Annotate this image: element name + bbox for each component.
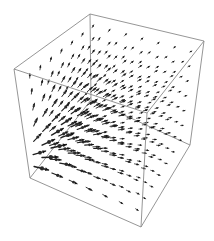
vector-arrow — [119, 111, 124, 113]
vector-arrow — [128, 127, 132, 129]
arrow-ball — [99, 105, 101, 107]
arrow-ball — [71, 165, 74, 168]
arrow-ball — [38, 151, 42, 155]
vector-arrow — [43, 123, 51, 131]
vector-arrow — [162, 86, 165, 88]
arrow-head — [106, 150, 108, 153]
vector-arrow — [104, 65, 108, 68]
vector-arrow — [111, 105, 115, 107]
vector-arrow — [120, 138, 124, 140]
vector-arrow — [76, 154, 85, 157]
vector-arrow — [172, 151, 175, 153]
vector-arrow — [107, 55, 110, 58]
vector-arrow — [101, 150, 108, 153]
vector-arrow — [49, 110, 53, 116]
vector-arrow — [145, 106, 149, 108]
vector-arrow — [126, 161, 131, 163]
vector-arrow — [31, 88, 33, 94]
vector-arrow — [136, 209, 139, 211]
vector-arrow — [102, 122, 109, 125]
vector-arrow — [78, 54, 80, 58]
arrow-head — [114, 139, 116, 141]
arrow-head — [58, 158, 61, 161]
arrow-ball — [104, 165, 106, 167]
vector-arrow — [97, 77, 102, 81]
vector-arrow — [62, 76, 65, 82]
vector-arrow — [52, 85, 55, 91]
vector-arrow — [119, 170, 123, 172]
arrow-ball — [47, 140, 51, 144]
arrow-ball — [62, 132, 65, 135]
vector-arrow — [84, 140, 90, 142]
vector-arrow — [137, 101, 141, 103]
vector-arrow — [102, 131, 107, 133]
vector-arrow — [50, 142, 59, 146]
vector-arrow — [122, 73, 126, 76]
vector-arrow — [49, 95, 52, 100]
vector-arrow — [155, 81, 158, 83]
arrow-head — [130, 143, 132, 145]
arrow-head — [138, 132, 140, 134]
vector-arrow — [110, 152, 116, 154]
vector-arrow — [168, 117, 171, 119]
vector-arrow — [140, 51, 143, 53]
vector-arrow — [129, 111, 133, 113]
vector-arrow — [173, 47, 175, 49]
vector-arrow — [93, 132, 101, 135]
arrow-ball — [53, 142, 56, 145]
vector-arrow — [52, 113, 60, 121]
vector-arrow — [112, 65, 115, 68]
box-edge — [141, 113, 147, 227]
arrow-head — [152, 141, 154, 143]
arrow-ball — [97, 133, 100, 136]
vector-arrow — [156, 56, 159, 58]
arrow-ball — [61, 117, 64, 120]
arrow-ball — [80, 112, 83, 115]
vector-arrow — [102, 165, 109, 168]
vector-arrow — [166, 147, 169, 149]
vector-arrow — [151, 170, 155, 172]
arrow-ball — [69, 134, 71, 136]
vector-arrow — [148, 52, 151, 54]
vector-arrow — [167, 104, 170, 106]
vector-arrow — [51, 71, 53, 76]
vector-arrow — [82, 59, 85, 64]
arrow-ball — [90, 115, 93, 118]
vector-arrow — [142, 152, 146, 154]
vector-arrow — [120, 154, 124, 156]
vector-arrow — [153, 84, 157, 86]
arrow-head — [31, 88, 33, 90]
vector-arrow — [33, 103, 36, 110]
vector-arrow — [151, 113, 155, 115]
vector-arrow — [130, 61, 133, 64]
vector-arrow — [126, 146, 131, 148]
vector-arrow — [102, 115, 106, 117]
vector-arrow — [176, 106, 179, 108]
vector-arrow — [152, 98, 156, 100]
arrow-ball — [70, 107, 73, 110]
vector-arrow — [118, 128, 124, 130]
vector-arrow — [71, 54, 73, 59]
vector-arrow — [108, 42, 111, 45]
arrow-ball — [52, 127, 55, 130]
vector-arrow — [78, 68, 81, 73]
vector-arrow — [175, 121, 178, 123]
vector-arrow — [160, 100, 164, 102]
vector-arrow — [135, 148, 140, 150]
vector-arrow — [184, 95, 187, 97]
vector-arrow — [59, 116, 66, 121]
vector-arrow — [146, 133, 150, 135]
vector-arrow — [86, 187, 92, 190]
vector-field-plot — [0, 0, 214, 241]
vector-arrow — [136, 132, 141, 134]
vector-arrow — [145, 80, 149, 82]
vector-arrow — [141, 38, 143, 40]
vector-arrow — [186, 80, 189, 82]
vector-arrow — [85, 69, 88, 73]
vector-arrow — [69, 180, 77, 184]
vector-arrow — [147, 76, 150, 78]
vector-arrow — [157, 144, 161, 146]
vector-arrow — [137, 90, 141, 92]
vector-arrow — [156, 66, 159, 68]
arrow-ball — [36, 135, 39, 138]
